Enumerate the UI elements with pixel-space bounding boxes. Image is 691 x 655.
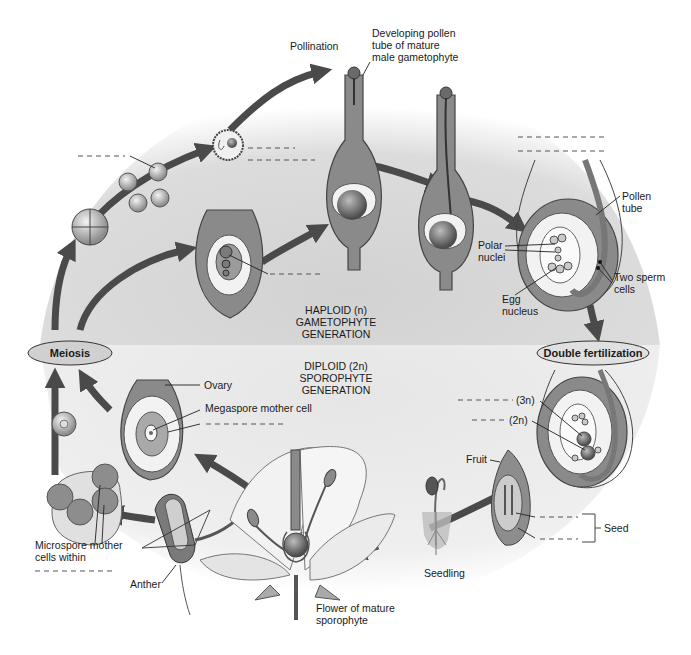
svg-text:(2n): (2n): [509, 414, 528, 426]
svg-text:HAPLOID (n): HAPLOID (n): [305, 304, 367, 316]
svg-text:Pollen: Pollen: [622, 190, 651, 202]
haploid-generation-label: HAPLOID (n) GAMETOPHYTE GENERATION: [296, 304, 376, 340]
seedling-label: Seedling: [424, 567, 465, 579]
developing-pollen-tube-label: Developing pollen tube of mature male ga…: [356, 27, 459, 88]
svg-text:Microspore mother: Microspore mother: [35, 539, 123, 551]
svg-text:nuclei: nuclei: [478, 251, 505, 263]
life-cycle-diagram: HAPLOID (n) GAMETOPHYTE GENERATION DIPLO…: [0, 0, 691, 655]
ovary-megaspore: [121, 380, 183, 480]
svg-text:GENERATION: GENERATION: [302, 328, 371, 340]
svg-text:cells: cells: [614, 283, 635, 295]
svg-text:Fruit: Fruit: [466, 453, 487, 465]
svg-text:GENERATION: GENERATION: [302, 384, 371, 396]
diploid-generation-label: DIPLOID (2n) SPOROPHYTE GENERATION: [300, 360, 373, 396]
pollination-label: Pollination: [290, 40, 339, 52]
svg-text:tube: tube: [622, 202, 643, 214]
svg-text:sporophyte: sporophyte: [316, 614, 368, 626]
microspore-mother-cells-label: Microspore mother cells within: [35, 539, 123, 571]
microspore-tetrad: [72, 209, 108, 245]
svg-text:tube of mature: tube of mature: [372, 39, 440, 51]
svg-text:Ovary: Ovary: [204, 379, 233, 391]
svg-text:Two sperm: Two sperm: [614, 271, 666, 283]
svg-text:Flower of mature: Flower of mature: [316, 602, 395, 614]
svg-text:(3n): (3n): [516, 394, 535, 406]
svg-text:Egg: Egg: [502, 293, 521, 305]
svg-text:Developing pollen: Developing pollen: [372, 27, 456, 39]
svg-text:Meiosis: Meiosis: [50, 347, 90, 359]
megaspore-cell: [52, 412, 76, 436]
svg-text:Anther: Anther: [130, 578, 161, 590]
anther-label: Anther: [130, 565, 176, 590]
svg-text:cells within: cells within: [35, 551, 86, 563]
meiosis-oval: Meiosis: [28, 341, 112, 365]
svg-text:Seed: Seed: [604, 522, 629, 534]
flower-label: Flower of mature sporophyte: [316, 602, 395, 626]
svg-text:nucleus: nucleus: [502, 305, 538, 317]
svg-text:Megaspore mother cell: Megaspore mother cell: [205, 402, 312, 414]
svg-text:Double fertilization: Double fertilization: [544, 347, 643, 359]
svg-text:GAMETOPHYTE: GAMETOPHYTE: [296, 316, 376, 328]
svg-text:male gametophyte: male gametophyte: [372, 51, 459, 63]
microsporangium: [47, 464, 122, 545]
svg-text:SPOROPHYTE: SPOROPHYTE: [300, 372, 373, 384]
svg-text:DIPLOID (2n): DIPLOID (2n): [304, 360, 368, 372]
double-fertilization-oval: Double fertilization: [537, 341, 649, 365]
svg-text:Polar: Polar: [478, 239, 503, 251]
